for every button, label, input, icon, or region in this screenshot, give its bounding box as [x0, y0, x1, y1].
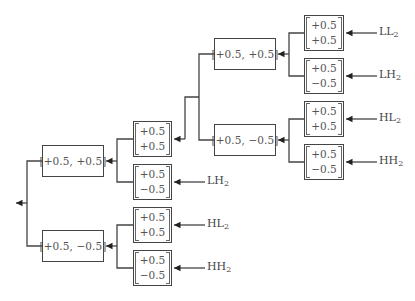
input-label-hh-mid: HH2: [207, 260, 231, 274]
vector-entry: +0.5: [311, 104, 337, 119]
column-vector: +0.5−0.5: [135, 252, 171, 284]
vector-entry: +0.5: [311, 61, 337, 76]
filter-box-l1-bottom: [+0.5, −0.5]: [42, 230, 104, 262]
vector-entry: +0.5: [311, 33, 337, 48]
vector-entry: +0.5: [140, 225, 166, 240]
vector-box-d: +0.5−0.5: [133, 250, 172, 286]
vector-entry: +0.5: [311, 147, 337, 162]
vector-entry: +0.5: [140, 167, 166, 182]
vector-box-lh: +0.5−0.5: [304, 58, 344, 94]
vector-entry: −0.5: [311, 162, 337, 177]
vector-box-a: +0.5+0.5: [133, 121, 172, 157]
input-label-hl-mid: HL2: [207, 217, 229, 231]
vector-box-hl: +0.5+0.5: [304, 101, 344, 137]
vector-entry: +0.5: [311, 119, 337, 134]
input-label-lh-mid: LH2: [207, 174, 229, 188]
vector-entry: +0.5: [311, 18, 337, 33]
coefficient-pair: [+0.5, −0.5]: [39, 240, 106, 252]
input-label-ll: LL2: [379, 25, 399, 39]
column-vector: +0.5+0.5: [135, 209, 171, 241]
vector-box-c: +0.5+0.5: [133, 207, 172, 243]
vector-entry: +0.5: [140, 253, 166, 268]
input-label-hl: HL2: [379, 111, 401, 125]
input-label-hh: HH2: [379, 154, 403, 168]
coefficient-pair: [+0.5, +0.5]: [39, 155, 106, 167]
vector-entry: −0.5: [140, 268, 166, 283]
coefficient-pair: [+0.5, −0.5]: [211, 134, 278, 146]
input-label-lh: LH2: [379, 68, 401, 82]
vector-box-b: +0.5−0.5: [133, 164, 172, 200]
column-vector: +0.5+0.5: [306, 17, 342, 49]
vector-entry: −0.5: [140, 182, 166, 197]
vector-entry: −0.5: [311, 76, 337, 91]
filter-box-l1-top: [+0.5, +0.5]: [42, 145, 104, 177]
vector-box-ll: +0.5+0.5: [304, 15, 344, 51]
column-vector: +0.5−0.5: [306, 146, 342, 178]
column-vector: +0.5+0.5: [135, 123, 171, 155]
column-vector: +0.5−0.5: [135, 166, 171, 198]
column-vector: +0.5+0.5: [306, 103, 342, 135]
filter-box-l2-top: [+0.5, +0.5]: [214, 38, 276, 70]
coefficient-pair: [+0.5, +0.5]: [211, 48, 278, 60]
vector-entry: +0.5: [140, 124, 166, 139]
vector-box-hh: +0.5−0.5: [304, 144, 344, 180]
vector-entry: +0.5: [140, 139, 166, 154]
column-vector: +0.5−0.5: [306, 60, 342, 92]
vector-entry: +0.5: [140, 210, 166, 225]
filter-box-l2-bottom: [+0.5, −0.5]: [214, 124, 276, 156]
